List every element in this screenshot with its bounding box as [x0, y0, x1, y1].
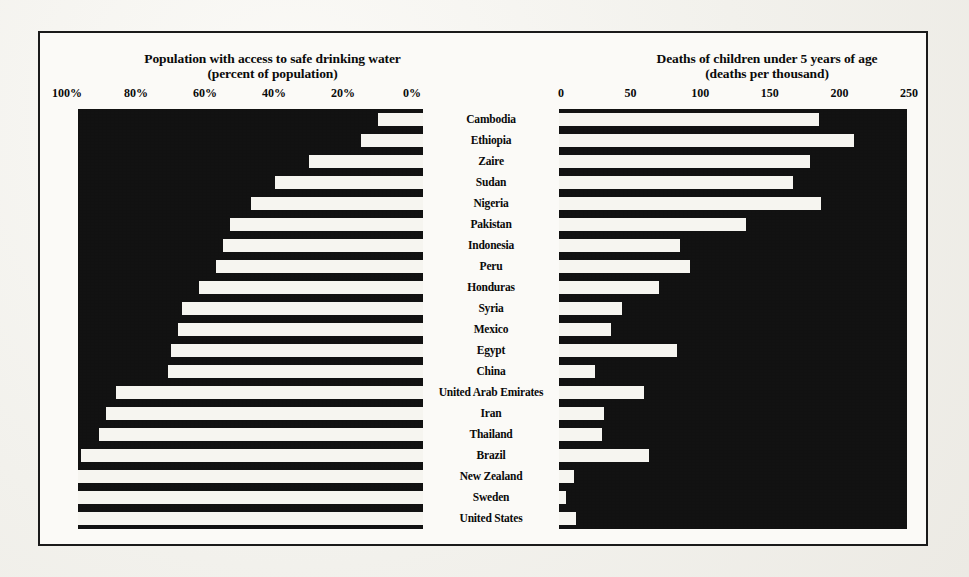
left-chart-title: Population with access to safe drinking …: [100, 51, 445, 81]
right-bar: [559, 449, 649, 462]
right-axis-tick-5: 250: [900, 86, 918, 101]
country-label: Egypt: [423, 344, 559, 357]
country-label: United Arab Emirates: [423, 386, 559, 399]
right-bar: [559, 155, 810, 168]
country-label: Thailand: [423, 428, 559, 441]
left-bar: [168, 365, 423, 378]
country-label: New Zealand: [423, 470, 559, 483]
country-label: Peru: [423, 260, 559, 273]
left-chart-title-line2: (percent of population): [100, 66, 445, 81]
right-bar: [559, 386, 644, 399]
right-bar: [559, 365, 595, 378]
right-bar: [559, 281, 659, 294]
country-label: Ethiopia: [423, 134, 559, 147]
left-bar: [199, 281, 423, 294]
left-bar: [378, 113, 423, 126]
right-bar: [559, 491, 566, 504]
left-bar: [223, 239, 423, 252]
right-bar: [559, 344, 677, 357]
figure-frame: Population with access to safe drinking …: [38, 31, 928, 546]
country-label: Pakistan: [423, 218, 559, 231]
right-plot-area: [559, 109, 907, 529]
country-label: Sweden: [423, 491, 559, 504]
right-bar: [559, 302, 622, 315]
left-bar: [361, 134, 423, 147]
right-bar: [559, 323, 611, 336]
country-label: Nigeria: [423, 197, 559, 210]
left-bar: [171, 344, 423, 357]
right-chart-title-line1: Deaths of children under 5 years of age: [592, 51, 942, 66]
left-bar: [78, 470, 423, 483]
right-bar: [559, 113, 819, 126]
left-bar: [99, 428, 423, 441]
country-label: Brazil: [423, 449, 559, 462]
country-label: Zaire: [423, 155, 559, 168]
right-bar: [559, 176, 793, 189]
country-label: Indonesia: [423, 239, 559, 252]
right-axis-tick-3: 150: [761, 86, 779, 101]
right-axis-tick-4: 200: [830, 86, 848, 101]
right-bar: [559, 260, 690, 273]
right-axis-tick-2: 100: [691, 86, 709, 101]
right-axis-tick-0: 0: [558, 86, 564, 101]
right-x-axis: 050100150200250: [40, 86, 930, 102]
country-label-column: CambodiaEthiopiaZaireSudanNigeriaPakista…: [423, 109, 559, 529]
left-bar: [230, 218, 423, 231]
right-bar: [559, 512, 576, 525]
left-bar: [106, 407, 423, 420]
right-chart-title-line2: (deaths per thousand): [592, 66, 942, 81]
right-bar: [559, 134, 854, 147]
left-plot-texture: [78, 109, 423, 529]
left-bar: [182, 302, 424, 315]
left-bar: [309, 155, 423, 168]
country-label: China: [423, 365, 559, 378]
right-bar: [559, 218, 746, 231]
right-bar: [559, 197, 821, 210]
left-bar: [216, 260, 423, 273]
right-axis-tick-1: 50: [625, 86, 637, 101]
country-label: Cambodia: [423, 113, 559, 126]
country-label: Mexico: [423, 323, 559, 336]
country-label: Sudan: [423, 176, 559, 189]
right-chart-title: Deaths of children under 5 years of age …: [592, 51, 942, 81]
left-bar: [78, 491, 423, 504]
right-bar: [559, 407, 604, 420]
country-label: Iran: [423, 407, 559, 420]
right-bar: [559, 239, 680, 252]
right-plot-texture: [559, 109, 907, 529]
country-label: Honduras: [423, 281, 559, 294]
left-bar: [78, 512, 423, 525]
right-bar: [559, 470, 574, 483]
right-bar: [559, 428, 602, 441]
left-bar: [275, 176, 423, 189]
left-bar: [81, 449, 423, 462]
left-plot-area: [78, 109, 423, 529]
country-label: United States: [423, 512, 559, 525]
left-bar: [116, 386, 423, 399]
left-chart-title-line1: Population with access to safe drinking …: [100, 51, 445, 66]
left-bar: [178, 323, 423, 336]
country-label: Syria: [423, 302, 559, 315]
left-bar: [251, 197, 424, 210]
